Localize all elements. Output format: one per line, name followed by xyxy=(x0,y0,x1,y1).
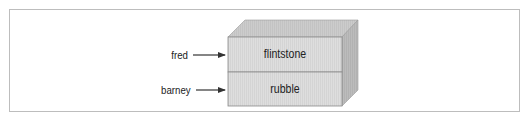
variable-label-barney: barney xyxy=(161,84,191,96)
cell-value-rubble: rubble xyxy=(235,83,335,95)
variable-label-fred: fred xyxy=(171,49,188,61)
box-top-face xyxy=(228,20,358,37)
cell-value-flintstone: flintstone xyxy=(235,48,335,60)
